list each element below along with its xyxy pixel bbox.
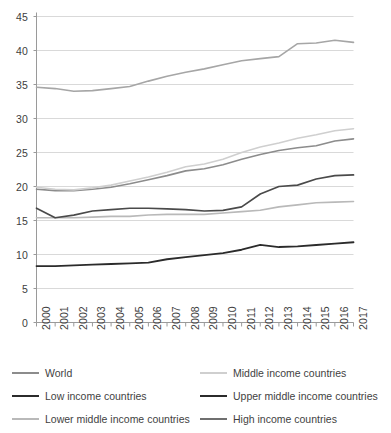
line-chart: 051015202530354045 200020012002200320042… bbox=[0, 0, 391, 360]
y-tick-label: 25 bbox=[2, 148, 28, 159]
series-line-upper-middle-income-countries bbox=[37, 175, 354, 218]
x-tick-label: 2012 bbox=[264, 306, 275, 330]
x-tick-label: 2014 bbox=[302, 306, 313, 330]
legend-label: Upper middle income countries bbox=[233, 391, 378, 402]
x-tick-label: 2004 bbox=[115, 306, 126, 330]
legend-swatch-line-icon bbox=[200, 418, 227, 420]
y-tick-label: 35 bbox=[2, 80, 28, 91]
legend-item[interactable]: Lower middle income countries bbox=[12, 412, 190, 426]
legend-label: High income countries bbox=[233, 414, 337, 425]
data-series-group bbox=[37, 40, 354, 266]
legend-swatch-line-icon bbox=[12, 372, 39, 374]
x-tick-label: 2007 bbox=[171, 306, 182, 330]
legend-label: Low income countries bbox=[45, 391, 147, 402]
y-tick-label: 45 bbox=[2, 12, 28, 23]
legend-item[interactable]: World bbox=[12, 366, 72, 380]
axis-lines bbox=[37, 13, 354, 323]
legend-label: Lower middle income countries bbox=[45, 414, 190, 425]
x-tick-label: 2010 bbox=[227, 306, 238, 330]
y-tick-label: 10 bbox=[2, 250, 28, 261]
x-tick-label: 2011 bbox=[246, 307, 257, 330]
y-tick-label: 15 bbox=[2, 216, 28, 227]
x-tick-label: 2013 bbox=[283, 306, 294, 330]
x-tick-label: 2002 bbox=[78, 306, 89, 330]
y-tick-label: 5 bbox=[2, 284, 28, 295]
y-tick-label: 30 bbox=[2, 114, 28, 125]
x-tick-label: 2001 bbox=[59, 306, 70, 330]
legend-swatch-line-icon bbox=[200, 372, 227, 374]
legend-swatch-line-icon bbox=[200, 395, 227, 397]
series-line-middle-income-countries bbox=[37, 129, 354, 190]
legend-item[interactable]: Middle income countries bbox=[200, 366, 346, 380]
x-tick-label: 2016 bbox=[339, 306, 350, 330]
x-tick-label: 2017 bbox=[358, 306, 369, 330]
y-tick-label: 40 bbox=[2, 46, 28, 57]
legend-item[interactable]: High income countries bbox=[200, 412, 337, 426]
y-tick-label: 20 bbox=[2, 182, 28, 193]
x-tick-label: 2008 bbox=[190, 306, 201, 330]
legend-item[interactable]: Low income countries bbox=[12, 389, 147, 403]
x-tick-label: 2006 bbox=[152, 306, 163, 330]
legend-swatch-line-icon bbox=[12, 418, 39, 420]
x-tick-label: 2009 bbox=[208, 306, 219, 330]
x-tick-label: 2015 bbox=[320, 306, 331, 330]
x-tick-label: 2005 bbox=[134, 306, 145, 330]
legend-label: Middle income countries bbox=[233, 368, 346, 379]
x-tick-label: 2003 bbox=[96, 306, 107, 330]
series-line-high-income-countries bbox=[37, 40, 354, 91]
x-tick-label: 2000 bbox=[41, 306, 52, 330]
legend-item[interactable]: Upper middle income countries bbox=[200, 389, 378, 403]
chart-screenshot: 051015202530354045 200020012002200320042… bbox=[0, 0, 391, 433]
legend-swatch-line-icon bbox=[12, 395, 39, 397]
y-tick-label: 0 bbox=[2, 318, 28, 329]
legend-label: World bbox=[45, 368, 72, 379]
chart-legend: WorldMiddle income countriesLow income c… bbox=[0, 362, 391, 433]
